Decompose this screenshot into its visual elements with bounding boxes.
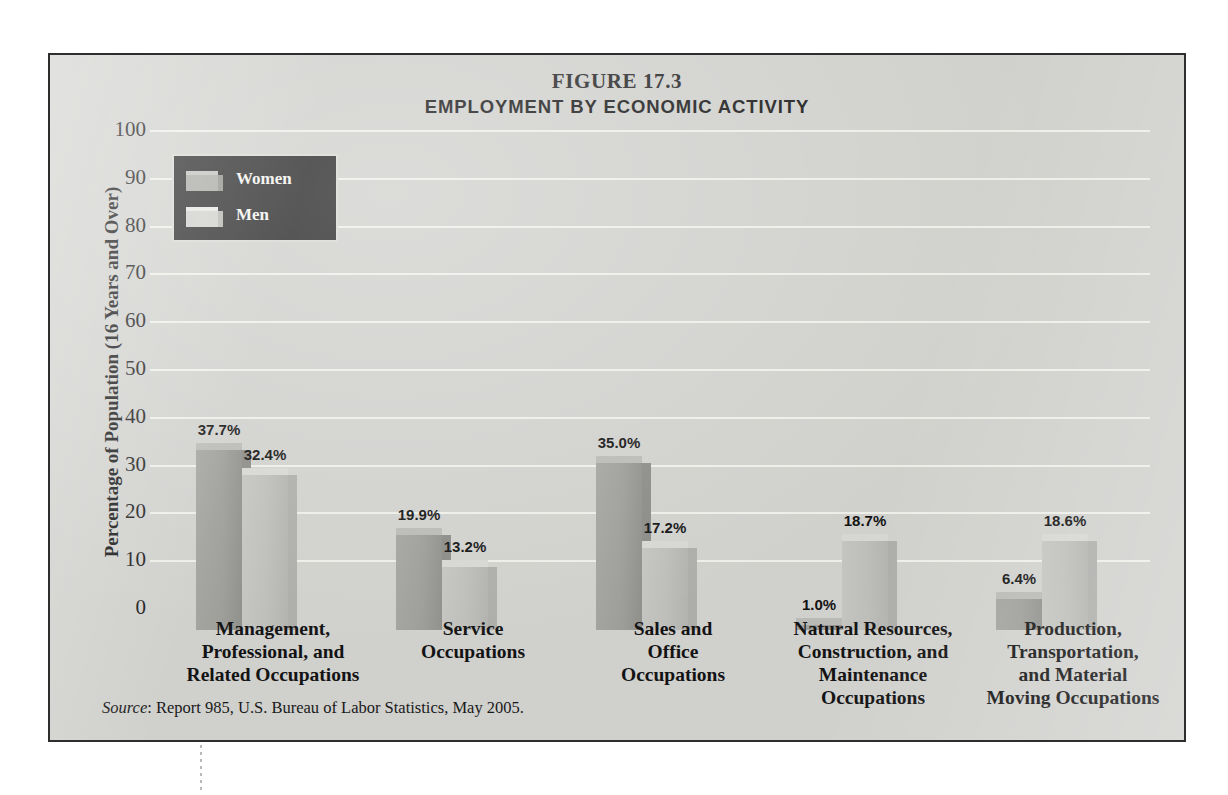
y-tick-label-60: 60 (86, 308, 146, 333)
category-label-line: Natural Resources, (758, 617, 988, 640)
legend-label-men: Men (236, 205, 269, 225)
y-tick-label-20: 20 (86, 499, 146, 524)
dotted-tether-line (200, 745, 202, 791)
category-label: Management,Professional, andRelated Occu… (158, 617, 388, 686)
y-tick-label-10: 10 (86, 547, 146, 572)
y-tick-label-40: 40 (86, 404, 146, 429)
figure-title: EMPLOYMENT BY ECONOMIC ACTIVITY (50, 96, 1184, 118)
category-label: Sales andOfficeOccupations (558, 617, 788, 686)
category-label-line: Related Occupations (158, 663, 388, 686)
y-tick-label-100: 100 (86, 117, 146, 142)
bar-value-label-women: 37.7% (164, 421, 274, 438)
y-tick-label-70: 70 (86, 260, 146, 285)
figure-frame: FIGURE 17.3 EMPLOYMENT BY ECONOMIC ACTIV… (48, 53, 1186, 742)
bar-value-label-women: 35.0% (564, 434, 674, 451)
category-label-line: and Material (958, 663, 1186, 686)
bar-value-label-men: 18.7% (810, 512, 920, 529)
y-tick-label-90: 90 (86, 165, 146, 190)
category-label-line: Office (558, 640, 788, 663)
category-label: Natural Resources,Construction, andMaint… (758, 617, 988, 709)
bar-value-label-men: 13.2% (410, 538, 520, 555)
category-label-line: Occupations (558, 663, 788, 686)
bar-group: 1.0%18.7% (750, 152, 950, 630)
bar-value-label-men: 17.2% (610, 519, 720, 536)
source-text: : Report 985, U.S. Bureau of Labor Stati… (147, 698, 524, 717)
category-label-line: Production, (958, 617, 1186, 640)
y-tick-label-80: 80 (86, 213, 146, 238)
chart-legend: Women Men (172, 154, 338, 242)
category-label-line: Professional, and (158, 640, 388, 663)
y-tick-label-30: 30 (86, 452, 146, 477)
bar-group: 19.9%13.2% (350, 152, 550, 630)
category-label-line: Management, (158, 617, 388, 640)
bar-value-label-men: 32.4% (210, 446, 320, 463)
category-label-line: Maintenance (758, 663, 988, 686)
category-label-line: Transportation, (958, 640, 1186, 663)
category-label-line: Occupations (358, 640, 588, 663)
bar-women (596, 463, 642, 630)
category-label-line: Moving Occupations (958, 686, 1186, 709)
legend-swatch-men-icon (186, 207, 218, 227)
y-tick-label-50: 50 (86, 356, 146, 381)
category-label-line: Sales and (558, 617, 788, 640)
legend-label-women: Women (236, 169, 292, 189)
category-label: Production,Transportation,and MaterialMo… (958, 617, 1186, 709)
category-label-line: Service (358, 617, 588, 640)
bar-group: 6.4%18.6% (950, 152, 1150, 630)
category-label-line: Construction, and (758, 640, 988, 663)
bar-group: 35.0%17.2% (550, 152, 750, 630)
legend-swatch-women-icon (186, 171, 218, 191)
source-note: Source: Report 985, U.S. Bureau of Labor… (102, 698, 524, 718)
gridline-100 (150, 130, 1150, 132)
bar-women (196, 450, 242, 630)
bar-value-label-men: 18.6% (1010, 512, 1120, 529)
source-word: Source (102, 698, 147, 717)
bar-men (242, 475, 288, 630)
bar-value-label-women: 19.9% (364, 506, 474, 523)
category-label-line: Occupations (758, 686, 988, 709)
category-label: ServiceOccupations (358, 617, 588, 663)
y-tick-label-0: 0 (86, 595, 146, 620)
figure-number: FIGURE 17.3 (50, 69, 1184, 94)
